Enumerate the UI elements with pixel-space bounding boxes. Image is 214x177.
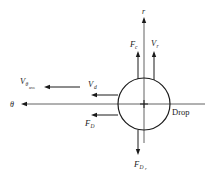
vtheta-ave-label: V θ ave: [20, 76, 35, 90]
fdr-arrowhead: [136, 149, 140, 155]
svg-text:D: D: [139, 164, 144, 170]
fdr-label: F D r: [133, 159, 147, 171]
drop-force-diagram: r θ Drop F c V r V d F D V θ ave: [0, 0, 214, 177]
fd-arrowhead: [91, 113, 97, 117]
vtheta-ave-arrowhead: [44, 85, 50, 89]
fc-label: F c: [129, 39, 138, 50]
svg-text:r: r: [145, 166, 147, 171]
vr-label: V r: [151, 38, 160, 49]
svg-text:d: d: [94, 84, 97, 90]
vr-arrowhead: [152, 51, 156, 57]
fd-label: F D: [84, 118, 95, 129]
vd-label: V d: [88, 79, 97, 90]
radial-axis-arrowhead: [142, 17, 146, 23]
vd-arrowhead: [91, 93, 97, 97]
tangential-axis-label: θ: [10, 100, 14, 109]
fc-arrowhead: [136, 51, 140, 57]
svg-text:ave: ave: [29, 85, 35, 90]
tangential-axis-arrowhead: [21, 102, 27, 106]
svg-text:c: c: [135, 44, 138, 50]
radial-axis-label: r: [142, 7, 146, 16]
svg-text:r: r: [157, 43, 160, 49]
drop-label: Drop: [172, 107, 189, 117]
svg-text:D: D: [90, 123, 95, 129]
